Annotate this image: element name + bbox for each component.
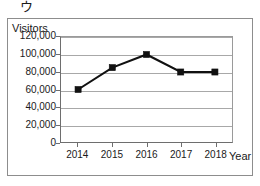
x-tick-mark [147,143,148,147]
plot-area [60,36,233,143]
data-point-marker [178,69,184,75]
data-point-marker [212,69,218,75]
x-tick-mark [77,143,78,147]
x-tick-mark [216,143,217,147]
y-tick-label: 120,000 [20,31,56,41]
y-tick-label: 100,000 [20,49,56,59]
x-tick-mark [112,143,113,147]
x-tick-label: 2015 [95,149,129,160]
y-tick-label: 20,000 [25,120,56,130]
y-tick-label: 60,000 [25,85,56,95]
y-tick-label: 40,000 [25,102,56,112]
data-point-marker [109,65,115,71]
x-tick-label: 2018 [199,149,233,160]
series-line [78,54,215,89]
y-tick-mark [56,143,60,144]
data-point-marker [143,51,149,57]
series-visitors [61,37,232,142]
chart-figure: ウ Visitors Year 020,00040,00060,00080,00… [0,0,260,186]
x-tick-label: 2014 [60,149,94,160]
x-tick-mark [181,143,182,147]
y-tick-label: 80,000 [25,67,56,77]
panel-label: ウ [20,0,33,14]
data-point-marker [75,86,81,92]
x-tick-label: 2017 [164,149,198,160]
x-tick-label: 2016 [130,149,164,160]
